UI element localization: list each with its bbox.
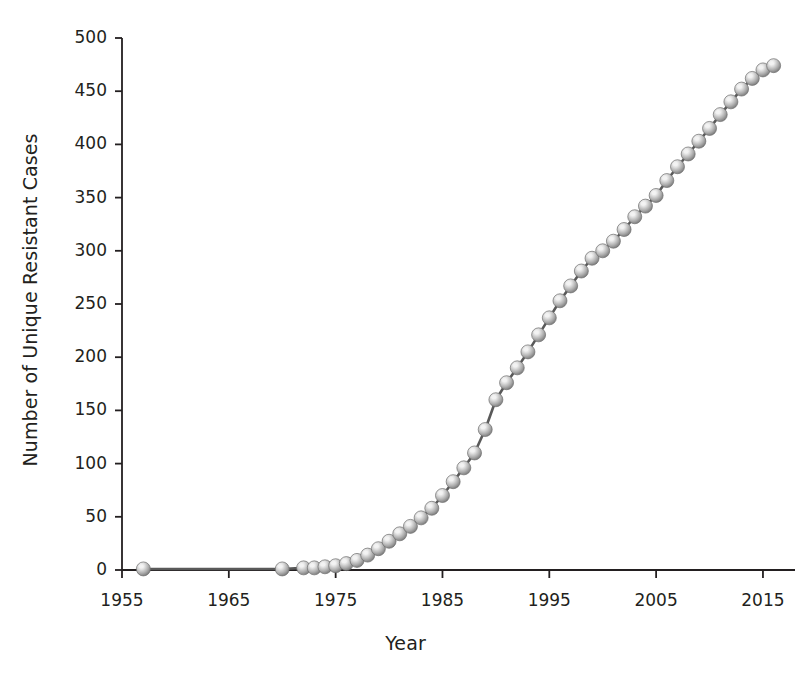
chart-plot-area	[0, 0, 811, 684]
data-point-marker	[521, 345, 535, 359]
data-point-marker	[713, 108, 727, 122]
data-point-marker	[692, 134, 706, 148]
data-point-marker	[564, 279, 578, 293]
y-tick-label: 0	[53, 559, 107, 579]
data-point-marker	[425, 501, 439, 515]
data-point-marker	[649, 188, 663, 202]
data-point-marker	[414, 511, 428, 525]
data-point-marker	[670, 160, 684, 174]
data-point-marker	[628, 210, 642, 224]
data-point-marker	[275, 562, 289, 576]
x-tick-label: 1985	[407, 590, 477, 610]
y-tick-label: 300	[53, 240, 107, 260]
data-point-marker	[435, 489, 449, 503]
data-point-marker	[574, 264, 588, 278]
data-point-marker	[638, 199, 652, 213]
y-tick-label: 100	[53, 453, 107, 473]
series-line	[143, 66, 773, 569]
x-tick-label: 1975	[301, 590, 371, 610]
x-axis-ticks	[122, 570, 763, 578]
data-markers	[136, 59, 780, 576]
data-point-marker	[532, 328, 546, 342]
data-point-marker	[596, 244, 610, 258]
x-tick-label: 2005	[621, 590, 691, 610]
data-point-marker	[735, 82, 749, 96]
data-point-marker	[136, 562, 150, 576]
data-point-marker	[468, 446, 482, 460]
data-point-marker	[478, 423, 492, 437]
y-tick-label: 400	[53, 133, 107, 153]
data-point-marker	[660, 174, 674, 188]
y-tick-label: 500	[53, 27, 107, 47]
y-tick-label: 200	[53, 346, 107, 366]
x-tick-label: 1965	[194, 590, 264, 610]
data-point-marker	[767, 59, 781, 73]
data-point-marker	[500, 376, 514, 390]
data-point-marker	[553, 294, 567, 308]
x-tick-label: 1955	[87, 590, 157, 610]
data-point-marker	[446, 475, 460, 489]
y-tick-label: 250	[53, 293, 107, 313]
data-point-marker	[542, 311, 556, 325]
y-axis-title: Number of Unique Resistant Cases	[19, 133, 41, 466]
data-point-marker	[457, 461, 471, 475]
y-axis-ticks	[115, 38, 122, 570]
data-point-marker	[617, 223, 631, 237]
x-tick-label: 1995	[514, 590, 584, 610]
axes	[122, 38, 795, 570]
y-tick-label: 50	[53, 506, 107, 526]
x-axis-title: Year	[0, 632, 811, 654]
data-point-marker	[703, 121, 717, 135]
data-line	[143, 66, 773, 569]
chart-figure: 050100150200250300350400450500 195519651…	[0, 0, 811, 684]
data-point-marker	[489, 393, 503, 407]
data-point-marker	[510, 361, 524, 375]
data-point-marker	[681, 147, 695, 161]
y-tick-label: 350	[53, 187, 107, 207]
y-tick-label: 150	[53, 399, 107, 419]
x-tick-label: 2015	[728, 590, 798, 610]
y-axis-title-container: Number of Unique Resistant Cases	[0, 0, 60, 600]
y-tick-label: 450	[53, 80, 107, 100]
data-point-marker	[606, 234, 620, 248]
data-point-marker	[724, 95, 738, 109]
